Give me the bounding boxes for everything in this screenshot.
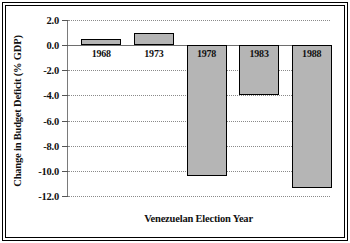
y-axis-tick (62, 146, 68, 147)
bar-category-label: 1983 (249, 48, 268, 59)
bar (134, 33, 174, 46)
y-axis-tick (62, 95, 68, 96)
y-axis-tick-label: -12.0 (38, 191, 59, 202)
y-axis-tick-label: -8.0 (43, 140, 59, 151)
y-axis-tick-label: -4.0 (43, 90, 59, 101)
y-axis-tick (62, 171, 68, 172)
x-axis-title: Venezuelan Election Year (67, 213, 330, 224)
bar (187, 45, 227, 176)
y-axis-tick-label: -6.0 (43, 115, 59, 126)
y-axis-tick-label: 0.0 (46, 40, 59, 51)
gridline (68, 196, 330, 197)
y-axis-tick-label: 2.0 (46, 15, 59, 26)
bar-category-label: 1978 (197, 48, 216, 59)
chart-figure: Change in Budget Deficit (% GDP) 2.00.0-… (0, 0, 350, 243)
bar-category-label: 1988 (302, 48, 321, 59)
y-axis-tick (62, 20, 68, 21)
y-axis-tick (62, 70, 68, 71)
bar-category-label: 1973 (144, 48, 163, 59)
y-axis-title: Change in Budget Deficit (% GDP) (12, 16, 26, 206)
y-axis-tick (62, 121, 68, 122)
y-axis-tick (62, 196, 68, 197)
bar (81, 39, 121, 45)
y-axis-title-container: Change in Budget Deficit (% GDP) (12, 16, 26, 206)
bar-category-label: 1968 (92, 48, 111, 59)
gridline (68, 20, 330, 21)
y-axis-tick-label: -10.0 (38, 165, 59, 176)
bar (292, 45, 332, 188)
y-axis-tick-label: -2.0 (43, 65, 59, 76)
plot-area: 2.00.0-2.0-4.0-6.0-8.0-10.0-12.019681973… (67, 20, 330, 196)
y-axis-tick (62, 45, 68, 46)
